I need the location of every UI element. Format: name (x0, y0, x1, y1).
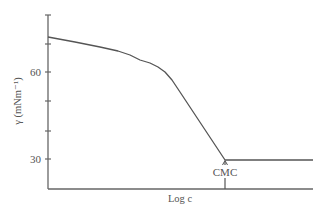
surface-tension-curve (48, 37, 313, 160)
x-axis-label: Log c (168, 193, 193, 204)
y-tick-label-60: 60 (30, 66, 42, 78)
cmc-label: CMC (213, 166, 237, 178)
y-tick-label-30: 30 (30, 153, 42, 165)
chart: 60 30 γ (mNm⁻¹) Log c CMC (0, 0, 326, 213)
y-axis-label: γ (mNm⁻¹) (12, 77, 24, 126)
